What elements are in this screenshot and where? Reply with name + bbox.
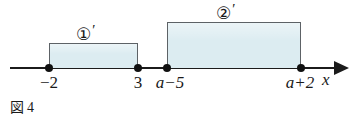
circled-numeral-1: ①	[76, 24, 91, 44]
tick-label-a-plus-2: a+2	[286, 74, 314, 93]
figure-caption-number: 4	[27, 100, 34, 115]
endpoint-dot-minus-2	[45, 64, 53, 72]
tick-label-minus-2: −2	[40, 74, 58, 93]
tick-label-3: 3	[134, 74, 143, 93]
endpoint-dot-3	[134, 64, 142, 72]
tick-label-a-minus-5: a−5	[156, 74, 184, 93]
axis-label-x: x	[322, 71, 330, 88]
figure-caption-symbol: 図	[10, 99, 24, 115]
interval-block-2-label: ②′	[216, 2, 235, 22]
interval-block-1	[49, 43, 138, 68]
circled-numeral-2: ②	[216, 3, 231, 23]
figure-4-diagram: x ①′ ②′ −2 3 a−5 a+2 図4	[0, 0, 364, 121]
endpoint-dot-a-plus-2	[297, 64, 305, 72]
interval-block-2	[167, 22, 301, 68]
prime-mark-1: ′	[91, 22, 94, 38]
interval-block-1-label: ①′	[76, 23, 95, 43]
figure-caption: 図4	[10, 100, 34, 115]
endpoint-dot-a-minus-5	[163, 64, 171, 72]
arrow-right-icon	[334, 61, 349, 75]
prime-mark-2: ′	[231, 1, 234, 17]
